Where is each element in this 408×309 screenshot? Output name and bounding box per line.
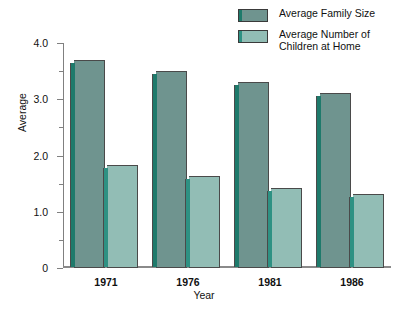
- bar-side-face: [267, 191, 272, 267]
- bar-side-face: [234, 85, 239, 267]
- bar-side-face: [70, 63, 75, 267]
- y-tick-minor: [59, 240, 63, 241]
- y-tick-label: 3.0: [33, 93, 48, 105]
- y-tick-major: 3.0: [57, 99, 63, 100]
- bar: [107, 165, 138, 268]
- x-tick-label: 1986: [320, 276, 384, 288]
- x-tick-label: 1976: [156, 276, 220, 288]
- y-tick-label: 0: [42, 262, 48, 274]
- legend-label-average-family-size: Average Family Size: [279, 8, 375, 20]
- x-axis-title: Year: [0, 289, 408, 301]
- x-tick-label: 1971: [74, 276, 138, 288]
- plot-area: 4.03.02.01.00 1971197619811986: [63, 43, 391, 268]
- bar-group: 1981: [238, 43, 302, 268]
- bar-side-face: [152, 74, 157, 267]
- y-tick-minor: [59, 184, 63, 185]
- swatch-edge: [239, 10, 242, 21]
- y-tick-label: 1.0: [33, 206, 48, 218]
- y-axis-line: [63, 43, 64, 268]
- bar: [238, 82, 269, 268]
- y-tick-major: 1.0: [57, 212, 63, 213]
- y-axis-title: Average: [16, 93, 28, 132]
- light-teal-swatch: [238, 30, 268, 43]
- y-tick-major: 4.0: [57, 43, 63, 44]
- bar: [156, 71, 187, 268]
- bar-side-face: [349, 197, 354, 267]
- bar: [271, 188, 302, 268]
- bar-chart: Average Family Size Average Number of Ch…: [0, 0, 408, 309]
- bar-side-face: [103, 168, 108, 267]
- bar-side-face: [185, 179, 190, 267]
- legend-item-average-family-size: Average Family Size: [238, 8, 406, 22]
- bar: [74, 60, 105, 268]
- y-tick-major: 2.0: [57, 156, 63, 157]
- y-tick-label: 2.0: [33, 150, 48, 162]
- y-tick-label: 4.0: [33, 37, 48, 49]
- swatch-edge: [239, 31, 242, 42]
- y-tick-major: 0: [57, 268, 63, 269]
- bar: [353, 194, 384, 268]
- bar-group: 1976: [156, 43, 220, 268]
- dark-teal-swatch: [238, 9, 268, 22]
- bar-group: 1971: [74, 43, 138, 268]
- y-tick-minor: [59, 127, 63, 128]
- y-tick-minor: [59, 71, 63, 72]
- bar: [320, 93, 351, 269]
- bar-side-face: [316, 96, 321, 268]
- bar: [189, 176, 220, 268]
- bar-group: 1986: [320, 43, 384, 268]
- x-tick-label: 1981: [238, 276, 302, 288]
